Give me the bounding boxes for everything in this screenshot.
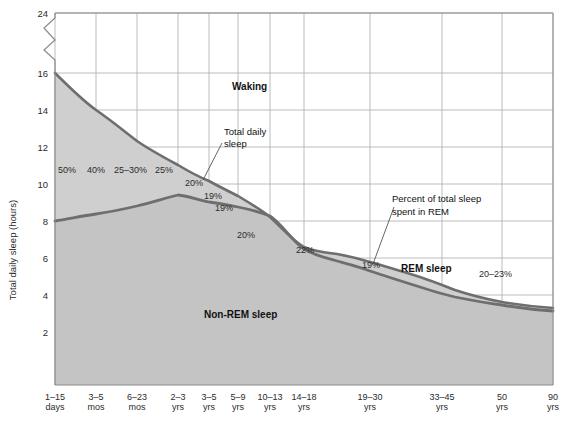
x-tick-5-line1: 5–9 <box>230 392 245 402</box>
y-tick-16: 16 <box>37 68 48 79</box>
y-tick-6: 6 <box>43 253 48 264</box>
total-daily-sleep-callout-line1: Total daily <box>224 126 266 137</box>
x-tick-7-line1: 14–18 <box>291 392 316 402</box>
pct-annotation-6: 19% <box>215 203 233 213</box>
pct-annotation-4: 20% <box>185 178 203 188</box>
x-tick-0-line1: 1–15 <box>45 392 65 402</box>
x-tick-7-line2: yrs <box>298 402 310 412</box>
x-tick-5-line2: yrs <box>232 402 244 412</box>
y-tick-8: 8 <box>43 216 48 227</box>
pct-annotation-1: 40% <box>87 165 105 175</box>
pct-annotation-0: 50% <box>58 165 76 175</box>
y-tick-10: 10 <box>37 179 48 190</box>
pct-annotation-5: 19% <box>204 191 222 201</box>
x-tick-9-line2: yrs <box>436 402 448 412</box>
chart-svg: 24 16 14 12 10 8 6 4 2 Total daily sleep… <box>0 0 582 429</box>
x-tick-6-line1: 10–13 <box>257 392 282 402</box>
x-tick-4-line2: yrs <box>203 402 215 412</box>
x-tick-10-line2: yrs <box>496 402 508 412</box>
total-daily-sleep-callout-line2: sleep <box>224 138 247 149</box>
x-tick-4-line1: 3–5 <box>201 392 216 402</box>
pct-annotation-9: 19% <box>362 260 380 270</box>
rem-percent-callout-line2: spent in REM <box>392 206 449 217</box>
y-tick-12: 12 <box>37 142 48 153</box>
y-tick-2: 2 <box>43 327 48 338</box>
x-tick-3-line2: yrs <box>172 402 184 412</box>
x-tick-0-line2: days <box>45 402 65 412</box>
y-tick-4: 4 <box>43 290 48 301</box>
pct-annotation-3: 25% <box>155 165 173 175</box>
region-label-waking: Waking <box>232 81 267 92</box>
y-tick-labels: 24 16 14 12 10 8 6 4 2 <box>37 8 48 338</box>
sleep-chart: 24 16 14 12 10 8 6 4 2 Total daily sleep… <box>0 0 582 429</box>
x-tick-2-line1: 6–23 <box>127 392 147 402</box>
region-label-non-rem-sleep: Non-REM sleep <box>204 309 277 320</box>
y-tick-14: 14 <box>37 105 48 116</box>
pct-annotation-7: 20% <box>237 230 255 240</box>
x-tick-2-line2: mos <box>128 402 146 412</box>
region-label-rem-sleep: REM sleep <box>401 263 452 274</box>
x-tick-8-line2: yrs <box>364 402 376 412</box>
pct-annotation-10: 20–23% <box>479 269 512 279</box>
x-tick-8-line1: 19–30 <box>357 392 382 402</box>
x-tick-labels: 1–15 days 3–5 mos 6–23 mos 2–3 yrs 3–5 y… <box>45 392 560 412</box>
x-tick-10-line1: 50 <box>497 392 507 402</box>
x-tick-6-line2: yrs <box>264 402 276 412</box>
pct-annotation-8: 22% <box>296 245 314 255</box>
x-tick-11-line2: yrs <box>547 402 559 412</box>
x-tick-3-line1: 2–3 <box>170 392 185 402</box>
x-tick-11-line1: 90 <box>548 392 558 402</box>
pct-annotation-2: 25–30% <box>114 165 147 175</box>
y-axis-title: Total daily sleep (hours) <box>7 200 18 300</box>
x-tick-1-line1: 3–5 <box>88 392 103 402</box>
y-tick-24: 24 <box>37 8 48 19</box>
x-tick-9-line1: 33–45 <box>429 392 454 402</box>
rem-percent-callout-line1: Percent of total sleep <box>392 193 481 204</box>
x-tick-1-line2: mos <box>87 402 105 412</box>
